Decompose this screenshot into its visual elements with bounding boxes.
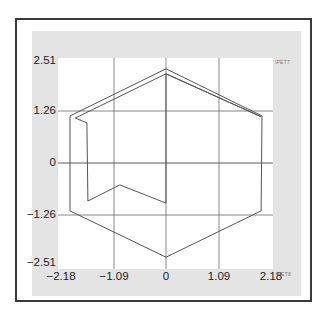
y-tick-label: 2.51 [22,54,56,66]
y-tick-label: 0 [22,156,56,168]
x-axis-tag: \PET8 [276,271,291,277]
y-axis-tag: \PET7 [275,59,290,65]
y-tick-label: −2.51 [22,256,56,268]
x-tick-label: 1.09 [197,270,241,282]
x-tick-label: −1.09 [92,270,136,282]
y-tick-label: 1.26 [22,104,56,116]
x-tick-label: 0 [144,270,188,282]
x-tick-label: −2.18 [39,270,83,282]
y-tick-label: −1.26 [22,208,56,220]
